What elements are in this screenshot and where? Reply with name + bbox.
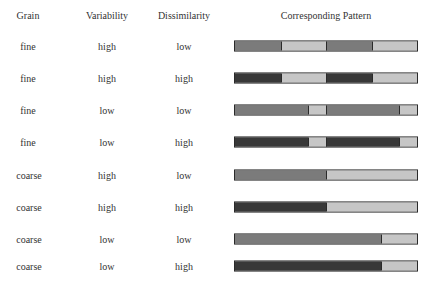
cell-dissimilarity: high <box>175 73 193 84</box>
pattern-segment-light <box>326 203 417 212</box>
pattern-bar <box>234 170 418 181</box>
pattern-segment-medium <box>235 106 308 115</box>
cell-variability: high <box>98 202 116 213</box>
cell-grain: coarse <box>16 261 42 272</box>
cell-variability: low <box>100 234 115 245</box>
pattern-segment-medium <box>235 235 381 244</box>
cell-dissimilarity: low <box>177 234 192 245</box>
pattern-segment-light <box>381 235 417 244</box>
cell-variability: high <box>98 170 116 181</box>
pattern-segment-light <box>308 138 326 147</box>
cell-grain: coarse <box>16 202 42 213</box>
pattern-segment-medium <box>235 171 326 180</box>
cell-variability: low <box>100 137 115 148</box>
pattern-bar <box>234 41 418 52</box>
pattern-segment-dark <box>326 74 372 83</box>
pattern-bar <box>234 234 418 245</box>
cell-dissimilarity: high <box>175 202 193 213</box>
cell-variability: high <box>98 73 116 84</box>
pattern-bar <box>234 261 418 272</box>
cell-grain: fine <box>20 73 36 84</box>
pattern-segment-dark <box>235 74 281 83</box>
pattern-segment-dark <box>235 262 381 271</box>
cell-grain: fine <box>20 137 36 148</box>
pattern-segment-light <box>372 74 418 83</box>
pattern-segment-medium <box>235 42 281 51</box>
cell-grain: coarse <box>16 234 42 245</box>
pattern-segment-light <box>326 171 417 180</box>
header-pattern: Corresponding Pattern <box>281 10 371 21</box>
pattern-segment-light <box>281 74 327 83</box>
pattern-bar <box>234 137 418 148</box>
cell-grain: coarse <box>16 170 42 181</box>
cell-variability: low <box>100 105 115 116</box>
pattern-segment-light <box>281 42 327 51</box>
cell-dissimilarity: low <box>177 41 192 52</box>
pattern-segment-dark <box>235 138 308 147</box>
pattern-segment-medium <box>326 42 372 51</box>
cell-variability: high <box>98 41 116 52</box>
pattern-segment-medium <box>326 106 399 115</box>
pattern-bar <box>234 73 418 84</box>
pattern-bar <box>234 202 418 213</box>
pattern-segment-light <box>372 42 418 51</box>
cell-grain: fine <box>20 105 36 116</box>
header-grain: Grain <box>17 10 40 21</box>
pattern-segment-light <box>381 262 417 271</box>
pattern-segment-dark <box>326 138 399 147</box>
header-dissimilarity: Dissimilarity <box>158 10 210 21</box>
cell-dissimilarity: low <box>177 105 192 116</box>
pattern-segment-light <box>399 106 417 115</box>
cell-grain: fine <box>20 41 36 52</box>
header-variability: Variability <box>86 10 128 21</box>
pattern-segment-light <box>399 138 417 147</box>
cell-dissimilarity: high <box>175 261 193 272</box>
pattern-segment-dark <box>235 203 326 212</box>
cell-dissimilarity: high <box>175 137 193 148</box>
pattern-segment-light <box>308 106 326 115</box>
pattern-bar <box>234 105 418 116</box>
cell-dissimilarity: low <box>177 170 192 181</box>
cell-variability: low <box>100 261 115 272</box>
